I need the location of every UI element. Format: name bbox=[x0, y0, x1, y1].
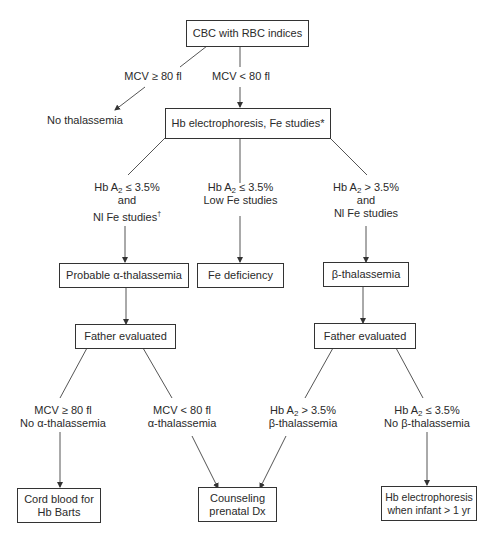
edge-label-father-left-right: MCV < 80 fl α-thalassemia bbox=[142, 404, 222, 430]
node-cbc-text: CBC with RBC indices bbox=[193, 27, 302, 40]
node-probable-alpha-thalassemia: Probable α-thalassemia bbox=[59, 263, 189, 288]
node-beta-thalassemia: β-thalassemia bbox=[323, 262, 409, 287]
edge-label-father-left-left: MCV ≥ 80 fl No α-thalassemia bbox=[20, 404, 106, 430]
node-cord-blood: Cord blood for Hb Barts bbox=[17, 488, 101, 523]
node-hb-electrophoresis: Hb electrophoresis, Fe studies* bbox=[165, 108, 331, 139]
edge-label-father-right-right: Hb A2 ≤ 3.5% No β-thalassemia bbox=[380, 404, 474, 430]
edge-label-mcv-ge: MCV ≥ 80 fl bbox=[118, 70, 188, 83]
node-no-thalassemia: No thalassemia bbox=[45, 114, 125, 127]
edge-label-mid-branch: Hb A2 ≤ 3.5% Low Fe studies bbox=[198, 181, 283, 207]
edge-label-left-branch: Hb A2 ≤ 3.5% and Nl Fe studies† bbox=[87, 181, 167, 224]
edge-label-mcv-lt: MCV < 80 fl bbox=[206, 70, 276, 83]
node-father-evaluated-left: Father evaluated bbox=[75, 324, 176, 349]
edge-label-father-right-left: Hb A2 > 3.5% β-thalassemia bbox=[260, 404, 346, 430]
node-cbc: CBC with RBC indices bbox=[186, 20, 309, 47]
node-counseling: Counseling prenatal Dx bbox=[198, 487, 277, 522]
node-hb-electrophoresis-text: Hb electrophoresis, Fe studies* bbox=[172, 117, 325, 130]
edge-label-right-branch: Hb A2 > 3.5% and Nl Fe studies bbox=[326, 181, 406, 220]
node-fe-deficiency: Fe deficiency bbox=[197, 263, 284, 288]
node-father-evaluated-right: Father evaluated bbox=[314, 323, 416, 349]
node-hb-electrophoresis-infant: Hb electrophoresis when infant > 1 yr bbox=[381, 486, 477, 521]
